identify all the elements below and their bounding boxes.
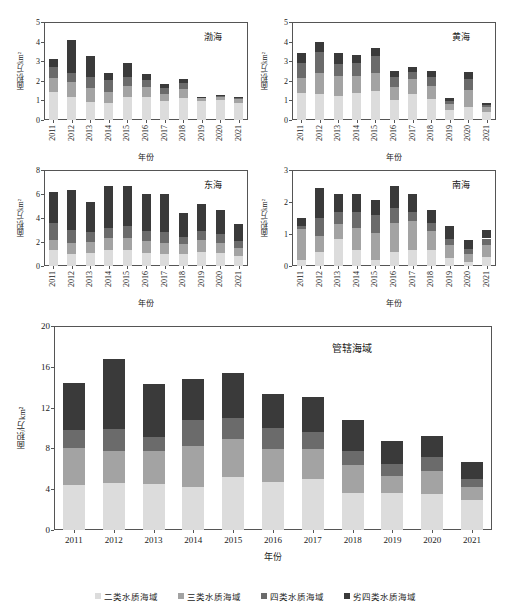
- bar-2014: [352, 22, 361, 120]
- bar-2015: [371, 170, 380, 266]
- bar-segment-四类水质海域: [234, 241, 243, 248]
- bar-2017: [160, 22, 169, 120]
- bar-segment-劣四类水质海域: [352, 55, 361, 63]
- bar-segment-二类水质海域: [352, 250, 361, 266]
- bar-segment-四类水质海域: [297, 226, 306, 229]
- bar-segment-三类水质海域: [222, 439, 244, 478]
- bar-2015: [123, 170, 132, 266]
- bar-2014: [352, 170, 361, 266]
- bar-segment-三类水质海域: [390, 223, 399, 252]
- bar-segment-二类水质海域: [216, 100, 225, 120]
- bar-segment-四类水质海域: [179, 83, 188, 89]
- bar-segment-三类水质海域: [371, 73, 380, 91]
- bar-segment-劣四类水质海域: [408, 67, 417, 72]
- x-axis-tick-mark: [183, 120, 184, 123]
- bar-segment-四类水质海域: [160, 232, 169, 243]
- x-axis-tick-label: 2018: [178, 271, 187, 287]
- x-axis-tick-mark: [431, 120, 432, 123]
- bar-segment-劣四类水质海域: [67, 190, 76, 230]
- bar-segment-四类水质海域: [390, 77, 399, 87]
- y-axis-tick-label: 0: [270, 262, 288, 271]
- x-axis-tick-mark: [53, 120, 54, 123]
- bar-segment-劣四类水质海域: [234, 224, 243, 241]
- y-axis-tick-mark: [41, 194, 44, 195]
- legend-swatch-icon: [95, 593, 101, 599]
- x-axis-title: 年份: [54, 550, 492, 563]
- x-axis-tick-label: 2015: [122, 271, 131, 287]
- y-axis-tick-mark: [289, 81, 292, 82]
- bar-segment-四类水质海域: [142, 231, 151, 242]
- bar-segment-劣四类水质海域: [342, 420, 364, 451]
- x-axis-title: 年份: [44, 297, 248, 308]
- bar-2016: [262, 326, 284, 530]
- y-axis-tick-mark: [289, 100, 292, 101]
- x-axis-tick-label: 2016: [141, 271, 150, 287]
- x-axis-tick-label: 2011: [48, 271, 57, 287]
- bar-2021: [482, 170, 491, 266]
- bar-segment-四类水质海域: [427, 223, 436, 231]
- y-axis-tick-mark: [289, 266, 292, 267]
- panel-title: 东海: [204, 178, 222, 191]
- bar-segment-劣四类水质海域: [63, 383, 85, 430]
- bar-2018: [179, 170, 188, 266]
- bar-segment-劣四类水质海域: [464, 72, 473, 79]
- bar-2014: [104, 170, 113, 266]
- x-axis-tick-label: 2016: [253, 535, 293, 545]
- panel-title: 南海: [452, 178, 470, 191]
- x-axis-tick-label: 2013: [333, 271, 342, 287]
- bar-segment-劣四类水质海域: [86, 56, 95, 77]
- bar-segment-劣四类水质海域: [49, 192, 58, 224]
- x-axis-tick-label: 2021: [234, 125, 243, 141]
- y-axis-tick-label: 3: [270, 57, 288, 66]
- x-axis-tick-mark: [450, 120, 451, 123]
- legend-item-class4: 四类水质海域: [261, 590, 324, 602]
- bar-2021: [482, 22, 491, 120]
- bar-segment-四类水质海域: [315, 218, 324, 236]
- bar-segment-二类水质海域: [408, 94, 417, 120]
- y-axis-tick-label: 0: [22, 116, 40, 125]
- bar-segment-四类水质海域: [63, 430, 85, 448]
- x-axis-tick-label: 2020: [412, 535, 452, 545]
- bar-segment-三类水质海域: [67, 82, 76, 98]
- x-axis-tick-mark: [72, 120, 73, 123]
- bar-segment-劣四类水质海域: [461, 462, 483, 479]
- bar-segment-劣四类水质海域: [371, 48, 380, 57]
- bar-segment-劣四类水质海域: [222, 373, 244, 418]
- y-axis-tick-label: 1: [270, 230, 288, 239]
- bar-segment-劣四类水质海域: [104, 186, 113, 229]
- bar-segment-三类水质海域: [302, 449, 324, 479]
- x-axis-tick-label: 2017: [160, 271, 169, 287]
- x-axis-tick-label: 2014: [173, 535, 213, 545]
- bar-segment-四类水质海域: [427, 77, 436, 86]
- y-axis-tick-mark: [41, 120, 44, 121]
- bar-segment-三类水质海域: [381, 476, 403, 493]
- x-axis-tick-mark: [450, 266, 451, 269]
- x-axis-tick-mark: [357, 266, 358, 269]
- x-axis-tick-label: 2014: [352, 271, 361, 287]
- bar-segment-劣四类水质海域: [390, 71, 399, 77]
- x-axis-tick-mark: [394, 266, 395, 269]
- y-axis-tick-mark: [51, 448, 54, 449]
- bar-segment-三类水质海域: [482, 245, 491, 257]
- x-axis-tick-label: 2020: [215, 271, 224, 287]
- y-axis-tick-label: 8: [22, 166, 40, 175]
- bar-segment-四类水质海域: [103, 429, 125, 452]
- bar-segment-劣四类水质海域: [123, 63, 132, 77]
- x-axis-tick-label: 2012: [315, 271, 324, 287]
- x-axis-tick-mark: [432, 530, 433, 533]
- bar-2011: [49, 22, 58, 120]
- bar-segment-二类水质海域: [222, 477, 244, 530]
- bar-segment-二类水质海域: [461, 500, 483, 530]
- x-axis-tick-label: 2013: [85, 125, 94, 141]
- y-axis-tick-mark: [41, 42, 44, 43]
- y-axis-tick-mark: [289, 22, 292, 23]
- y-axis-tick-mark: [289, 42, 292, 43]
- x-axis-tick-label: 2011: [296, 271, 305, 287]
- bar-2011: [63, 326, 85, 530]
- bar-segment-二类水质海域: [86, 253, 95, 266]
- x-axis-tick-mark: [193, 530, 194, 533]
- bar-segment-三类水质海域: [408, 79, 417, 94]
- y-axis-tick-mark: [41, 81, 44, 82]
- bar-segment-二类水质海域: [197, 252, 206, 266]
- bar-segment-四类水质海域: [222, 418, 244, 438]
